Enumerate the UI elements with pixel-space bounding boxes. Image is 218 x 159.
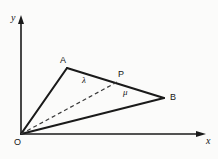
vector-diagram-figure: A B P O λ μ x y (0, 0, 218, 159)
y-axis-label: y (11, 13, 15, 23)
segment-OP-dashed (21, 81, 119, 134)
segment-label-lambda: λ (82, 76, 86, 85)
diagram-canvas (0, 0, 218, 159)
x-axis-arrowhead (196, 131, 206, 137)
origin-label: O (14, 138, 21, 147)
point-label-A: A (60, 56, 66, 65)
x-axis-label: x (206, 136, 210, 146)
point-label-B: B (170, 93, 176, 102)
point-label-P: P (118, 70, 124, 79)
segment-label-mu: μ (123, 88, 128, 97)
y-axis-arrowhead (18, 15, 24, 24)
